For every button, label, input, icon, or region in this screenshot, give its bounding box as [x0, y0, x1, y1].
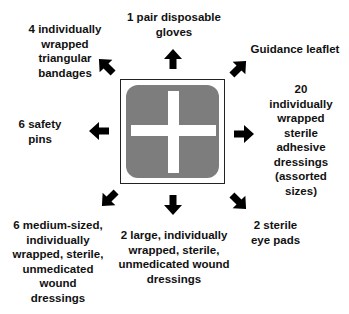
arrow-up-right-icon [223, 52, 254, 83]
label-medium-wound-dressings: 6 medium-sized,individuallywrapped, ster… [8, 218, 108, 305]
arrow-up-icon [162, 48, 184, 70]
first-aid-kit-diagram: 1 pair disposablegloves 4 individuallywr… [0, 0, 349, 314]
label-gloves: 1 pair disposablegloves [108, 10, 240, 39]
arrow-left-icon [88, 120, 110, 142]
label-guidance-leaflet: Guidance leaflet [245, 42, 345, 57]
arrow-down-right-icon [223, 186, 254, 217]
arrow-down-icon [162, 194, 184, 216]
cross-horizontal-bar [131, 125, 216, 136]
arrow-right-icon [233, 123, 255, 145]
arrow-down-left-icon [93, 183, 124, 214]
label-adhesive-dressings: 20individuallywrappedsterileadhesivedres… [256, 82, 346, 198]
first-aid-cross-icon [126, 85, 219, 178]
label-eye-pads: 2 sterileeye pads [238, 218, 313, 247]
first-aid-kit-box [120, 79, 225, 184]
label-large-wound-dressings: 2 large, individuallywrapped, sterile,un… [114, 228, 234, 286]
label-safety-pins: 6 safetypins [5, 117, 75, 146]
